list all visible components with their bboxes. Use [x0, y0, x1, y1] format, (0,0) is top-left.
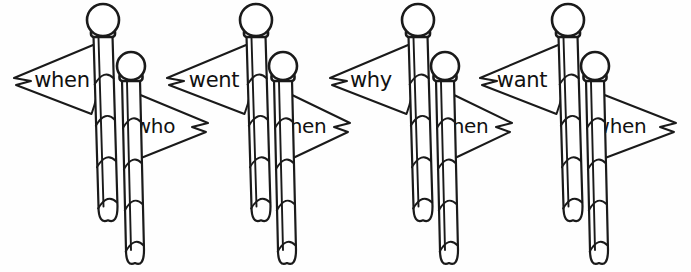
- tall-flagpole-ball-finial: [402, 4, 434, 36]
- short-flagpole-ball-finial: [581, 52, 609, 80]
- flag-word-worksheet: whenwhowentwhenwhywhenwantwhen: [0, 0, 691, 272]
- tall-flagpole-shaft: [559, 36, 583, 221]
- short-flagpole-ball-finial: [269, 52, 297, 80]
- short-flagpole-shaft: [436, 80, 458, 264]
- short-flagpole-ball-finial: [431, 52, 459, 80]
- short-flagpole-shaft: [122, 80, 144, 264]
- short-flagpole-shaft: [274, 80, 296, 264]
- left-pennant-word: when: [34, 68, 90, 92]
- tall-flagpole-shaft: [247, 36, 271, 221]
- tall-flagpole-ball-finial: [552, 4, 584, 36]
- tall-flagpole-ball-finial: [87, 4, 119, 36]
- tall-flagpole-shaft: [94, 36, 118, 221]
- tall-flagpole-ball-finial: [240, 4, 272, 36]
- left-pennant-word: went: [189, 68, 240, 92]
- short-flagpole-shaft: [586, 80, 608, 264]
- left-pennant-word: want: [497, 68, 547, 92]
- short-flagpole-ball-finial: [117, 52, 145, 80]
- left-pennant-word: why: [350, 68, 392, 92]
- tall-flagpole-shaft: [409, 36, 433, 221]
